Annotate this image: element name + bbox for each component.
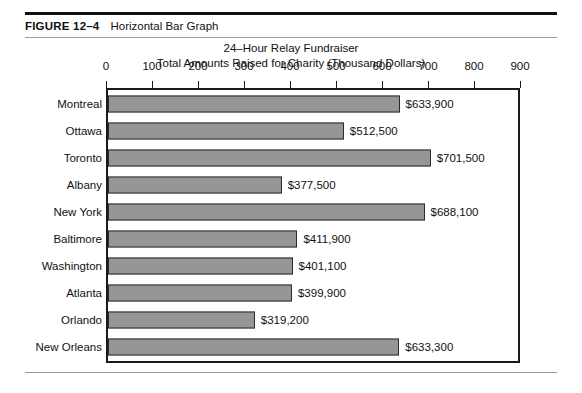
bar-value-label: $399,900	[298, 287, 346, 299]
bar-category-label: Montreal	[57, 98, 102, 110]
bar-value-label: $411,900	[303, 233, 350, 245]
bar-category-label: Orlando	[61, 314, 102, 326]
x-axis-tick-label: 500	[326, 60, 345, 72]
bar-value-label: $401,100	[299, 260, 347, 272]
bar-row: Baltimore$411,900	[108, 226, 522, 253]
bar-row: Orlando$319,200	[108, 307, 522, 334]
bar-category-label: Washington	[42, 260, 102, 272]
bar	[108, 203, 425, 220]
bar-category-label: New York	[53, 206, 102, 218]
plot-area: Montreal$633,900Ottawa$512,500Toronto$70…	[106, 88, 520, 363]
bar-row: New Orleans$633,300	[108, 334, 522, 361]
bar-category-label: Baltimore	[53, 233, 102, 245]
bar-value-label: $633,900	[406, 98, 454, 110]
bar-category-label: Ottawa	[66, 125, 102, 137]
x-axis-tick	[520, 81, 521, 88]
x-axis-tick	[106, 81, 107, 88]
x-axis: 0100200300400500600700800900	[106, 74, 520, 88]
bar	[108, 285, 292, 302]
chart-title: 24–Hour Relay Fundraiser	[0, 42, 582, 54]
x-axis-tick-label: 600	[372, 60, 391, 72]
bar-category-label: Atlanta	[66, 287, 102, 299]
x-axis-tick	[152, 81, 153, 88]
bar-row: Montreal$633,900	[108, 90, 522, 117]
bar	[108, 149, 431, 166]
bar-category-label: Albany	[67, 179, 102, 191]
bar	[108, 339, 399, 356]
bar-category-label: New Orleans	[36, 341, 102, 353]
x-axis-tick	[474, 81, 475, 88]
x-axis-tick-label: 700	[418, 60, 437, 72]
x-axis-tick	[428, 81, 429, 88]
x-axis-tick-label: 200	[188, 60, 207, 72]
x-axis-tick	[290, 81, 291, 88]
bar	[108, 95, 400, 112]
bar	[108, 176, 282, 193]
bar-value-label: $633,300	[405, 341, 453, 353]
bar-value-label: $701,500	[437, 152, 485, 164]
bar-row: Atlanta$399,900	[108, 280, 522, 307]
x-axis-tick-label: 400	[280, 60, 299, 72]
figure-footer-rule	[25, 372, 557, 373]
bar	[108, 312, 255, 329]
x-axis-tick-label: 0	[103, 60, 109, 72]
horizontal-bar-chart: 24–Hour Relay Fundraiser Total Amounts R…	[0, 0, 582, 393]
x-axis-tick-label: 100	[142, 60, 161, 72]
bar-value-label: $377,500	[288, 179, 336, 191]
x-axis-tick	[336, 81, 337, 88]
x-axis-tick	[382, 81, 383, 88]
x-axis-tick	[244, 81, 245, 88]
x-axis-tick	[198, 81, 199, 88]
bar-value-label: $319,200	[261, 314, 309, 326]
x-axis-tick-label: 900	[510, 60, 529, 72]
bar-value-label: $512,500	[350, 125, 398, 137]
bar-row: Ottawa$512,500	[108, 117, 522, 144]
bar-row: Albany$377,500	[108, 171, 522, 198]
bar-value-label: $688,100	[431, 206, 479, 218]
bar-category-label: Toronto	[64, 152, 102, 164]
bar-row: New York$688,100	[108, 198, 522, 225]
bar	[108, 258, 293, 275]
bar-row: Washington$401,100	[108, 253, 522, 280]
bar-row: Toronto$701,500	[108, 144, 522, 171]
bar	[108, 231, 297, 248]
x-axis-tick-label: 300	[234, 60, 253, 72]
bar	[108, 122, 344, 139]
x-axis-tick-label: 800	[464, 60, 483, 72]
